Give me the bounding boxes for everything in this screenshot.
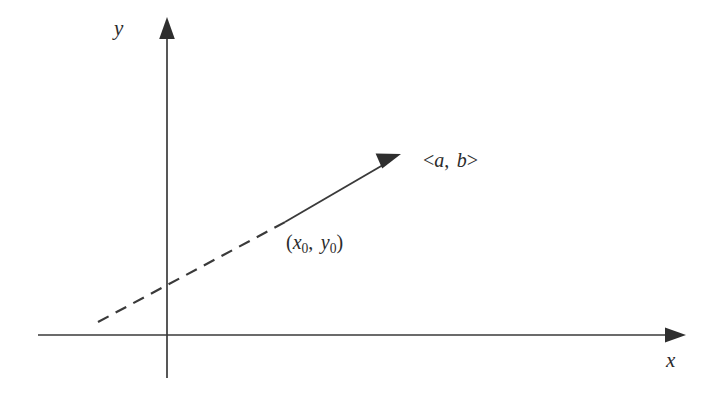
point-open-paren: ( xyxy=(286,231,293,253)
point-separator: , xyxy=(308,231,320,253)
vector-component-a: a xyxy=(434,149,444,171)
point-label: (x0, y0) xyxy=(286,232,343,255)
diagram-canvas xyxy=(0,0,716,403)
arrow-up-icon xyxy=(159,17,175,39)
y-axis-label: y xyxy=(114,18,123,39)
vector-component-b: b xyxy=(457,149,467,171)
x-axis-label: x xyxy=(666,350,675,371)
dashed-ray-line xyxy=(98,221,288,323)
vector-close-bracket: > xyxy=(467,149,478,171)
point-y-symbol: y xyxy=(321,231,330,253)
vector-components-label: <a, b> xyxy=(423,150,478,170)
vector-diagram-figure: y x <a, b> (x0, y0) xyxy=(0,0,716,403)
vector-separator: , xyxy=(444,149,456,171)
vector-shaft-line xyxy=(285,162,389,223)
vector-open-bracket: < xyxy=(423,149,434,171)
point-x-symbol: x xyxy=(293,231,302,253)
point-close-paren: ) xyxy=(336,231,343,253)
arrow-right-icon xyxy=(665,328,686,343)
